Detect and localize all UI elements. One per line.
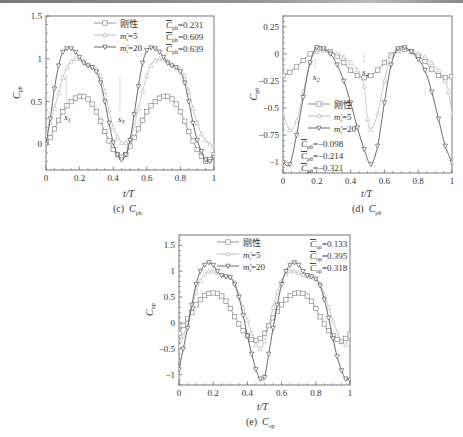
panel-d-xlabel: t/T bbox=[361, 188, 372, 199]
square-marker bbox=[98, 119, 102, 123]
square-marker bbox=[382, 60, 386, 64]
triangle-up-marker bbox=[271, 305, 275, 309]
triangle-down-marker bbox=[177, 368, 181, 372]
triangle-up-marker bbox=[149, 63, 153, 67]
legend: 刚性m*t=5m*t=20Cpθ=−0.098Cpθ=−0.214Cpθ=−0.… bbox=[301, 99, 356, 175]
triangle-down-marker bbox=[182, 81, 186, 85]
square-marker bbox=[318, 315, 322, 319]
panel-d-caption-prefix: (d) bbox=[352, 203, 364, 214]
mean-value-label: Cop=0.318 bbox=[310, 263, 348, 274]
y-tick-label: −0.5 bbox=[263, 103, 280, 113]
legend-entry: 刚性 bbox=[120, 18, 138, 29]
triangle-up-marker bbox=[115, 135, 119, 139]
triangle-up-marker bbox=[198, 278, 202, 282]
triangle-down-marker bbox=[335, 355, 339, 359]
triangle-down-marker bbox=[69, 47, 73, 51]
square-marker bbox=[322, 322, 326, 326]
triangle-down-marker bbox=[119, 158, 123, 162]
mean-value-label: Cop=0.133 bbox=[310, 239, 348, 250]
y-axis-label: Cop bbox=[144, 303, 156, 316]
triangle-up-marker bbox=[107, 108, 111, 112]
square-marker bbox=[77, 94, 81, 98]
square-marker bbox=[195, 147, 199, 151]
triangle-down-marker bbox=[262, 375, 266, 379]
triangle-down-marker bbox=[61, 50, 65, 54]
square-marker bbox=[294, 65, 298, 69]
triangle-up-marker bbox=[375, 111, 379, 115]
square-marker bbox=[56, 118, 60, 122]
mean-value-label: Cpθ=−0.098 bbox=[301, 139, 344, 150]
triangle-down-marker bbox=[389, 63, 393, 67]
square-marker bbox=[153, 99, 157, 103]
y-tick-label: 0.5 bbox=[164, 292, 176, 302]
triangle-up-marker bbox=[382, 79, 386, 83]
triangle-up-marker bbox=[111, 125, 115, 129]
square-marker bbox=[342, 60, 346, 64]
y-axis-label: Cpθ bbox=[248, 88, 260, 101]
triangle-down-marker bbox=[443, 144, 447, 148]
square-marker bbox=[174, 102, 178, 106]
y-tick-label: 0 bbox=[275, 49, 280, 59]
panel-c-caption-sub: ph bbox=[136, 210, 142, 216]
triangle-up-marker bbox=[199, 132, 203, 136]
x-tick-label: 0.2 bbox=[311, 176, 322, 186]
triangle-up-marker bbox=[145, 73, 149, 77]
panel-e-caption: (e) Cop bbox=[246, 416, 275, 429]
triangle-up-marker bbox=[140, 89, 144, 93]
triangle-down-marker bbox=[342, 79, 346, 83]
legend-entry: m*t=5 bbox=[334, 112, 352, 123]
series-line bbox=[281, 46, 454, 131]
square-marker bbox=[279, 303, 283, 307]
square-marker bbox=[301, 291, 305, 295]
triangle-up-marker bbox=[275, 289, 279, 293]
triangle-up-marker bbox=[181, 333, 185, 337]
square-marker bbox=[103, 129, 107, 133]
square-marker bbox=[297, 291, 301, 295]
legend-entry: m*t=20 bbox=[334, 124, 356, 135]
triangle-up-marker bbox=[423, 55, 427, 59]
panel-c: 00.20.40.60.8100.511.5Cphs1s3刚性m*t=5m*t=… bbox=[11, 11, 216, 183]
y-tick-label: −0.25 bbox=[258, 76, 279, 86]
triangle-down-marker bbox=[52, 87, 56, 91]
triangle-down-marker bbox=[94, 70, 98, 74]
square-marker bbox=[284, 297, 288, 301]
figure-canvas: 00.20.40.60.8100.511.5Cphs1s3刚性m*t=5m*t=… bbox=[0, 0, 463, 437]
triangle-up-marker bbox=[450, 111, 454, 115]
square-marker bbox=[82, 94, 86, 98]
square-marker bbox=[157, 96, 161, 100]
triangle-down-marker bbox=[382, 101, 386, 105]
square-marker bbox=[187, 129, 191, 133]
panel-e-caption-symbol: C bbox=[262, 416, 269, 427]
annotation-label: s2 bbox=[313, 72, 320, 83]
triangle-down-marker bbox=[331, 337, 335, 341]
triangle-down-marker bbox=[198, 269, 202, 273]
square-marker bbox=[436, 73, 440, 77]
triangle-up-marker bbox=[326, 305, 330, 309]
x-tick-label: 0 bbox=[177, 388, 182, 398]
triangle-down-marker bbox=[191, 121, 195, 125]
triangle-down-marker bbox=[249, 352, 253, 356]
square-marker bbox=[170, 97, 174, 101]
triangle-down-marker bbox=[195, 138, 199, 142]
y-tick-label: −1 bbox=[165, 370, 175, 380]
square-marker bbox=[198, 297, 202, 301]
square-marker bbox=[344, 336, 348, 340]
x-tick-label: 0.8 bbox=[310, 388, 322, 398]
triangle-down-marker bbox=[241, 313, 245, 317]
square-marker bbox=[375, 68, 379, 72]
triangle-up-marker bbox=[365, 116, 369, 120]
panel-d-caption: (d) Cpθ bbox=[352, 203, 381, 216]
mean-value-label: Cop=0.395 bbox=[310, 251, 348, 262]
triangle-up-marker bbox=[56, 91, 60, 95]
square-marker bbox=[166, 94, 170, 98]
series-line bbox=[177, 269, 352, 351]
triangle-up-marker bbox=[294, 119, 298, 123]
square-marker bbox=[194, 303, 198, 307]
y-tick-label: −0.5 bbox=[159, 344, 176, 354]
triangle-down-marker bbox=[326, 316, 330, 320]
triangle-down-marker bbox=[450, 160, 454, 164]
x-tick-label: 0 bbox=[281, 176, 286, 186]
square-marker bbox=[314, 306, 318, 310]
triangle-up-marker bbox=[446, 89, 450, 93]
x-tick-label: 0.6 bbox=[141, 173, 153, 183]
